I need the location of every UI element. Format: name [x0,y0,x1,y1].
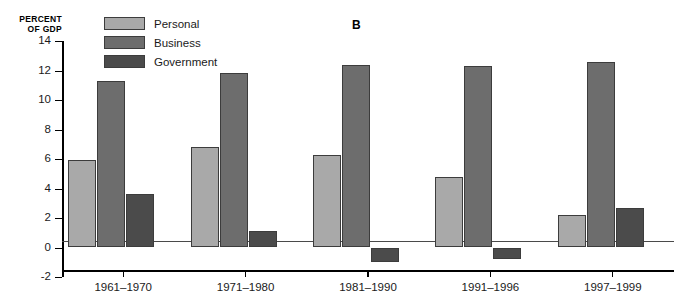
bar-government-4 [616,208,644,248]
bar-business-0 [97,81,125,248]
y-axis-title-line-1: PERCENT [4,14,62,24]
y-tick: 14 [55,41,62,42]
y-axis-title-line-2: OF GDP [4,24,62,34]
x-tick-label: 1981–1990 [339,281,397,293]
y-tick-label: 4 [45,182,51,194]
y-tick-label: 14 [38,34,51,46]
legend-label-personal: Personal [154,18,199,30]
bar-personal-4 [558,215,586,247]
y-tick: 0 [55,248,62,249]
panel-letter: B [352,18,361,32]
x-tick-label: 1997–1999 [584,281,642,293]
y-axis-title: PERCENT OF GDP [4,14,62,34]
y-tick: 2 [55,218,62,219]
y-tick-label: -2 [41,270,51,282]
x-tick [490,270,491,277]
y-tick-label: 10 [38,93,51,105]
y-tick: 8 [55,130,62,131]
plot-area: -202468101214 1961–19701971–19801981–199… [62,41,674,277]
bar-personal-3 [435,177,463,248]
x-tick [123,270,124,277]
x-tick [612,270,613,277]
legend-swatch-personal [104,17,145,30]
bar-business-3 [464,66,492,247]
y-tick-label: 6 [45,152,51,164]
bar-personal-0 [68,160,96,247]
y-tick: 4 [55,189,62,190]
bar-personal-1 [191,147,219,247]
bar-government-2 [371,248,399,263]
y-tick-label: 12 [38,64,51,76]
x-tick [245,270,246,277]
y-tick: 12 [55,71,62,72]
y-tick-label: 8 [45,123,51,135]
bar-government-3 [493,248,521,260]
y-tick: 6 [55,159,62,160]
x-tick [367,270,368,277]
bar-personal-2 [313,155,341,248]
y-tick: -2 [55,277,62,278]
y-tick-label: 2 [45,211,51,223]
y-tick-label: 0 [45,241,51,253]
bar-government-1 [249,231,277,247]
bar-business-4 [587,62,615,248]
bar-chart-panel-b: PERCENT OF GDP B Personal Business Gover… [0,0,681,299]
bar-government-0 [126,194,154,247]
legend-item-personal: Personal [104,14,217,33]
bar-business-2 [342,65,370,248]
y-tick: 10 [55,100,62,101]
x-tick-label: 1971–1980 [217,281,275,293]
x-tick-label: 1991–1996 [462,281,520,293]
bar-business-1 [220,73,248,247]
x-tick-label: 1961–1970 [94,281,152,293]
